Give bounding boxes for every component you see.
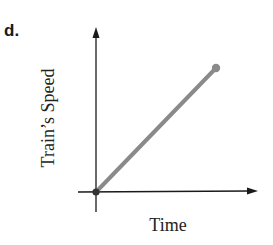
origin-point	[92, 188, 99, 195]
x-axis-arrow-icon	[247, 188, 258, 195]
x-axis	[78, 191, 250, 192]
y-axis-arrow-icon	[93, 27, 100, 38]
speed-line	[96, 68, 216, 192]
end-point	[212, 64, 220, 72]
x-axis-label: Time	[149, 215, 186, 236]
y-axis-label: Train’s Speed	[38, 69, 59, 168]
